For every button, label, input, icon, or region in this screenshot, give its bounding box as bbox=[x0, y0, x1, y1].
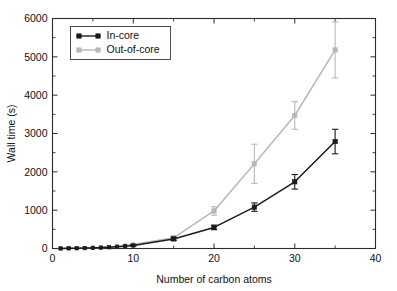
data-point-marker bbox=[91, 246, 94, 249]
data-point-marker bbox=[333, 139, 337, 143]
data-point-marker bbox=[123, 245, 126, 248]
legend-label: In-core bbox=[107, 29, 140, 41]
data-point-marker bbox=[171, 237, 175, 241]
legend-label: Out-of-core bbox=[107, 43, 160, 55]
data-point-marker bbox=[99, 246, 102, 249]
y-axis-title: Wall time (s) bbox=[5, 105, 17, 163]
y-tick-label: 1000 bbox=[24, 204, 48, 216]
y-tick-label: 5000 bbox=[24, 51, 48, 63]
chart-legend: In-coreOut-of-core bbox=[71, 27, 171, 60]
y-tick-label: 2000 bbox=[24, 166, 48, 178]
data-point-marker bbox=[293, 180, 297, 184]
x-tick-label: 10 bbox=[127, 252, 139, 264]
data-point-marker bbox=[212, 209, 216, 213]
y-tick-label: 0 bbox=[42, 242, 48, 254]
legend-marker-swatch bbox=[96, 34, 100, 38]
data-point-marker bbox=[252, 205, 256, 209]
data-point-marker bbox=[293, 113, 297, 117]
x-tick-label: 40 bbox=[370, 252, 382, 264]
figure-container: 0100020003000400050006000010203040Number… bbox=[0, 0, 397, 291]
legend-marker-swatch bbox=[77, 48, 81, 52]
series-line bbox=[61, 50, 336, 248]
data-point-marker bbox=[83, 246, 86, 249]
data-point-marker bbox=[212, 225, 216, 229]
data-point-marker bbox=[115, 245, 118, 248]
data-point-marker bbox=[107, 246, 110, 249]
data-point-marker bbox=[252, 162, 256, 166]
x-tick-label: 30 bbox=[289, 252, 301, 264]
series-in-core bbox=[59, 129, 338, 250]
data-point-marker bbox=[59, 247, 62, 250]
legend-marker-swatch bbox=[96, 48, 100, 52]
y-tick-label: 4000 bbox=[24, 89, 48, 101]
y-tick-label: 3000 bbox=[24, 127, 48, 139]
data-point-marker bbox=[132, 244, 135, 247]
data-point-marker bbox=[333, 48, 337, 52]
series-line bbox=[61, 142, 336, 249]
x-tick-label: 0 bbox=[50, 252, 56, 264]
data-point-marker bbox=[75, 247, 78, 250]
y-tick-label: 6000 bbox=[24, 12, 48, 24]
x-tick-label: 20 bbox=[208, 252, 220, 264]
legend-marker-swatch bbox=[77, 34, 81, 38]
chart-plot-area: 0100020003000400050006000010203040Number… bbox=[0, 0, 397, 291]
data-point-marker bbox=[67, 247, 70, 250]
x-axis-title: Number of carbon atoms bbox=[156, 273, 272, 285]
wall-time-vs-carbon-atoms-chart: 0100020003000400050006000010203040Number… bbox=[0, 0, 397, 291]
